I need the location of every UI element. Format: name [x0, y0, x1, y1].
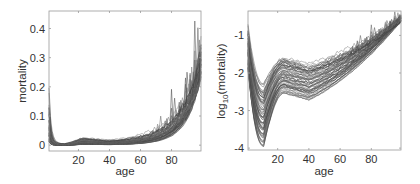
- mortality-curve: [49, 63, 201, 145]
- y-tick-label: -3: [234, 105, 244, 117]
- right-y-axis-label: log10(mortality): [215, 43, 230, 119]
- mortality-curve: [49, 74, 201, 145]
- y-tick-label: 0: [39, 139, 45, 151]
- mortality-curve: [49, 61, 201, 146]
- mortality-curve: [49, 71, 201, 146]
- mortality-curve: [49, 59, 201, 145]
- y-tick-label: -1: [234, 29, 244, 41]
- mortality-curve: [49, 60, 201, 145]
- x-tick-label: 20: [72, 154, 84, 166]
- y-tick-label: 0.2: [30, 81, 45, 93]
- mortality-curve: [49, 72, 201, 145]
- mortality-curve: [49, 71, 201, 144]
- mortality-curve: [49, 71, 201, 145]
- mortality-curve: [49, 78, 201, 145]
- y-tick-label: -2: [234, 67, 244, 79]
- mortality-curve: [49, 73, 201, 145]
- mortality-curve: [49, 62, 201, 145]
- mortality-curve: [49, 57, 201, 145]
- y-tick-label: -4: [234, 142, 244, 154]
- y-tick-label: 0.4: [30, 23, 45, 35]
- mortality-curve: [49, 59, 201, 145]
- mortality-curve: [49, 72, 201, 145]
- x-tick-label: 20: [272, 153, 284, 165]
- mortality-curve: [49, 60, 201, 145]
- mortality-curve: [49, 72, 201, 144]
- right-panel-log-mortality: 20406080-4-3-2-1 age log10(mortality): [215, 11, 401, 177]
- y-tick-label: 0.3: [30, 52, 45, 64]
- mortality-curve: [49, 59, 201, 145]
- left-panel-mortality: 2040608000.10.20.30.4 age mortality: [16, 11, 201, 177]
- mortality-curve: [49, 75, 201, 145]
- x-tick-label: 60: [134, 154, 146, 166]
- left-x-axis-label: age: [115, 165, 134, 177]
- x-tick-label: 80: [365, 153, 377, 165]
- mortality-curve: [49, 74, 201, 145]
- right-curves: [248, 12, 401, 147]
- mortality-curve: [49, 77, 201, 145]
- right-x-axis-label: age: [314, 165, 333, 177]
- mortality-curve: [49, 64, 201, 145]
- x-tick-label: 40: [103, 154, 115, 166]
- mortality-curve: [49, 76, 201, 145]
- mortality-curve: [49, 56, 201, 145]
- mortality-curve: [49, 60, 201, 145]
- mortality-curve: [49, 65, 201, 145]
- x-tick-label: 80: [165, 154, 177, 166]
- x-tick-label: 60: [334, 153, 346, 165]
- mortality-curve: [49, 64, 201, 145]
- mortality-curve: [49, 64, 201, 145]
- mortality-curve: [49, 71, 201, 145]
- y-tick-label: 0.1: [30, 110, 45, 122]
- x-tick-label: 40: [303, 153, 315, 165]
- left-y-axis-label: mortality: [16, 59, 28, 103]
- figure: 2040608000.10.20.30.4 age mortality 2040…: [0, 0, 420, 184]
- left-curves: [49, 21, 201, 145]
